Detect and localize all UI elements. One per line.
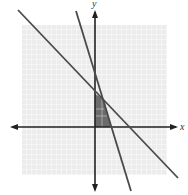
x-axis-arrow-left xyxy=(10,124,18,130)
y-axis-label: y xyxy=(92,0,96,9)
coordinate-plane xyxy=(0,0,188,195)
y-axis-arrow-down xyxy=(92,184,98,192)
y-axis-arrow-up xyxy=(92,10,98,18)
x-axis-label: x xyxy=(180,121,184,132)
x-axis-arrow-right xyxy=(170,124,178,130)
